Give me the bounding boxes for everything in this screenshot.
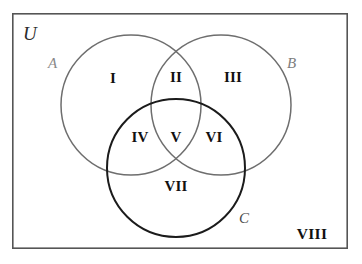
set-label-a: A bbox=[48, 56, 57, 71]
venn-diagram: U A B C I II III IV V VI VII VIII bbox=[0, 0, 362, 264]
region-label-i: I bbox=[110, 71, 116, 86]
region-label-iv: IV bbox=[131, 130, 148, 145]
region-label-viii: VIII bbox=[297, 226, 328, 242]
region-label-ii: II bbox=[170, 70, 182, 85]
region-label-iii: III bbox=[224, 70, 242, 85]
set-label-b: B bbox=[287, 56, 296, 71]
region-label-vi: VI bbox=[205, 130, 222, 145]
universe-label: U bbox=[23, 24, 37, 43]
region-label-v: V bbox=[170, 130, 181, 145]
set-label-c: C bbox=[239, 211, 249, 226]
region-label-vii: VII bbox=[164, 179, 187, 194]
